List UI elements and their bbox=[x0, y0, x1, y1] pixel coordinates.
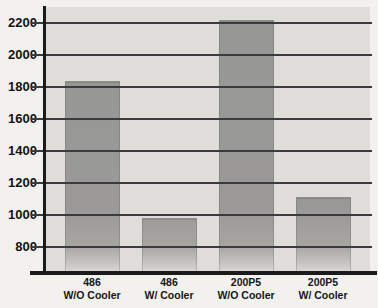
gridline bbox=[31, 150, 372, 152]
bar bbox=[219, 20, 274, 272]
bar bbox=[65, 81, 120, 272]
x-axis-line bbox=[30, 271, 377, 275]
category-line2: W/ Cooler bbox=[268, 289, 378, 302]
x-category-label: 200P5W/ Cooler bbox=[268, 276, 378, 302]
gridline bbox=[31, 246, 372, 248]
gridline bbox=[31, 54, 372, 56]
bar-chart: 2200200018001600140012001000800486W/O Co… bbox=[0, 0, 378, 308]
gridline bbox=[31, 182, 372, 184]
gridline bbox=[31, 86, 372, 88]
bar bbox=[296, 197, 351, 272]
gridline bbox=[31, 22, 372, 24]
category-line1: 200P5 bbox=[268, 276, 378, 289]
gridline bbox=[31, 214, 372, 216]
gridline bbox=[31, 118, 372, 120]
y-axis-line bbox=[43, 6, 46, 272]
